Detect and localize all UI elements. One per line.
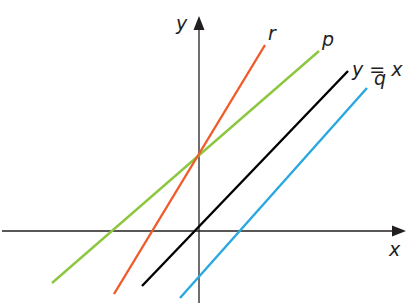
x-axis-arrow-icon [392, 226, 406, 237]
x-axis-label: x [388, 238, 401, 260]
coordinate-plane: x y pry = xq [0, 0, 416, 303]
line-p [52, 51, 319, 283]
y-axis-arrow-icon [194, 16, 205, 30]
line-label-r: r [268, 22, 277, 44]
line-label-p: p [321, 28, 334, 50]
y-axis-label: y [175, 12, 188, 34]
line-q [180, 88, 367, 298]
line-r [114, 45, 265, 294]
line-label-q: q [374, 67, 386, 89]
